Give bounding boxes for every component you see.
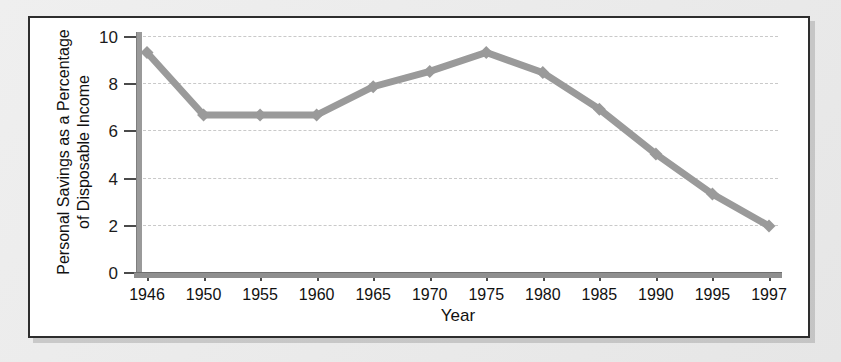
x-axis-tick-label: 1946 (129, 286, 165, 304)
x-axis-tick-label: 1960 (299, 286, 335, 304)
x-axis-tick-label: 1950 (186, 286, 222, 304)
chart-panel: Personal Savings as a Percentage of Disp… (28, 16, 810, 338)
y-axis-tick-label: 8 (109, 75, 118, 95)
x-axis-tick-label: 1955 (242, 286, 278, 304)
x-axis-line (134, 272, 782, 278)
y-axis-title-line-1: Personal Savings as a Percentage (54, 29, 74, 274)
series-polyline (147, 53, 769, 226)
y-axis-tick: 4 (124, 178, 136, 180)
x-axis-tick-label: 1990 (638, 286, 674, 304)
x-axis-tick-label: 1997 (751, 286, 787, 304)
y-axis-tick: 10 (124, 36, 136, 38)
y-axis-tick: 8 (124, 83, 136, 85)
x-axis-title: Year (138, 306, 778, 326)
y-axis-title: Personal Savings as a Percentage of Disp… (44, 32, 104, 272)
x-axis-tick-label: 1970 (412, 286, 448, 304)
y-axis-tick-label: 10 (99, 28, 118, 48)
y-axis-title-line-2: of Disposable Income (74, 75, 94, 229)
y-axis-tick: 2 (124, 225, 136, 227)
y-axis-tick-label: 6 (109, 122, 118, 142)
x-axis-tick-label: 1975 (468, 286, 504, 304)
data-series-line (138, 36, 778, 272)
y-axis-tick-label: 0 (109, 264, 118, 284)
y-axis-tick-label: 2 (109, 217, 118, 237)
x-axis-tick-label: 1965 (355, 286, 391, 304)
data-point-marker (254, 109, 267, 122)
figure-root: Personal Savings as a Percentage of Disp… (0, 0, 841, 362)
x-axis-tick-label: 1995 (695, 286, 731, 304)
plot-area: 0246810 19461950195519601965197019751980… (138, 36, 778, 272)
y-axis-tick-label: 4 (109, 170, 118, 190)
x-axis-tick-label: 1985 (582, 286, 618, 304)
x-axis-tick-label: 1980 (525, 286, 561, 304)
y-axis-tick: 6 (124, 130, 136, 132)
